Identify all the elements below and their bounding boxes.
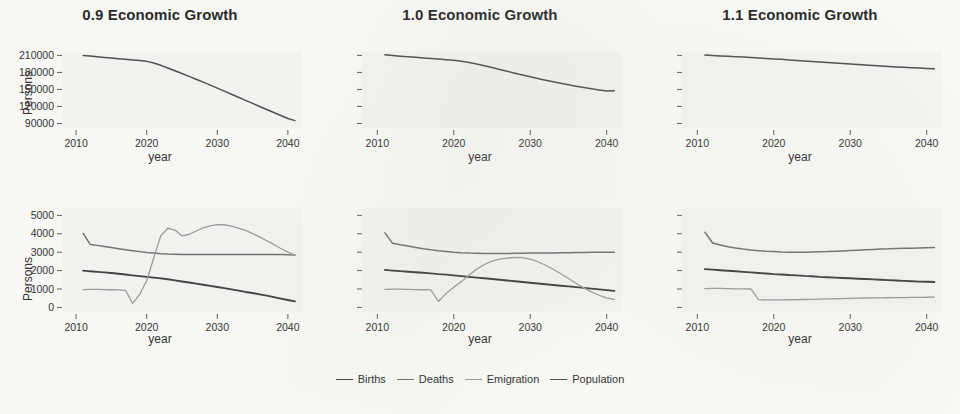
y-axis-tick-label: 4000 — [31, 227, 55, 239]
x-axis-tick-label: 2040 — [276, 137, 300, 149]
x-axis-label: year — [0, 150, 320, 164]
plot-background — [682, 52, 942, 128]
y-axis-tick-label: 3000 — [31, 246, 55, 258]
y-axis-tick-label: 210000 — [19, 49, 54, 61]
plot-background — [362, 208, 622, 312]
x-axis-label: year — [320, 332, 640, 346]
legend-label: Deaths — [419, 374, 454, 385]
x-axis-tick-label: 2010 — [686, 137, 710, 149]
x-axis-tick-label: 2030 — [519, 137, 543, 149]
x-axis-tick-label: 2010 — [366, 137, 390, 149]
panel-bottom-left: Persons 01000200030004000500020102020203… — [0, 186, 320, 372]
x-axis-tick-label: 2020 — [762, 137, 786, 149]
x-axis-tick-label: 2030 — [839, 137, 863, 149]
panel-top-right: 1.1 Economic Growth 2010202020302040 yea… — [640, 0, 960, 186]
x-axis-tick-label: 2010 — [64, 137, 88, 149]
panel-grid: 0.9 Economic Growth Persons 900001200001… — [0, 0, 960, 414]
x-axis-tick-label: 2030 — [206, 137, 230, 149]
panel-top-left: 0.9 Economic Growth Persons 900001200001… — [0, 0, 320, 186]
y-axis-tick-label: 5000 — [31, 209, 55, 221]
legend-swatch-icon — [397, 379, 414, 380]
plot-background — [682, 208, 942, 312]
chart-legend: BirthsDeathsEmigrationPopulation — [0, 374, 960, 385]
legend-item-population[interactable]: Population — [550, 374, 624, 385]
y-axis-tick-label: 120000 — [19, 100, 54, 112]
x-axis-tick-label: 2020 — [442, 137, 466, 149]
y-axis-tick-label: 90000 — [25, 117, 54, 129]
plot-background — [362, 52, 622, 128]
x-axis-tick-label: 2040 — [915, 137, 939, 149]
legend-item-births[interactable]: Births — [336, 374, 386, 385]
x-axis-label: year — [0, 332, 320, 346]
legend-item-deaths[interactable]: Deaths — [397, 374, 454, 385]
legend-swatch-icon — [336, 379, 353, 380]
panel-bottom-middle: 2010202020302040 year — [320, 186, 640, 372]
plot-background — [62, 52, 302, 128]
legend-label: Births — [358, 374, 386, 385]
legend-item-emigration[interactable]: Emigration — [465, 374, 540, 385]
legend-swatch-icon — [550, 379, 567, 380]
y-axis-tick-label: 1000 — [31, 283, 55, 295]
panel-bottom-right: 2010202020302040 year — [640, 186, 960, 372]
y-axis-tick-label: 150000 — [19, 83, 54, 95]
y-axis-tick-label: 0 — [48, 301, 54, 313]
x-axis-tick-label: 2040 — [595, 137, 619, 149]
y-axis-tick-label: 180000 — [19, 66, 54, 78]
x-axis-label: year — [640, 332, 960, 346]
y-axis-tick-label: 2000 — [31, 264, 55, 276]
legend-label: Emigration — [487, 374, 540, 385]
legend-label: Population — [572, 374, 624, 385]
x-axis-tick-label: 2020 — [135, 137, 159, 149]
panel-top-middle: 1.0 Economic Growth 2010202020302040 yea… — [320, 0, 640, 186]
x-axis-label: year — [640, 150, 960, 164]
legend-swatch-icon — [465, 379, 482, 380]
x-axis-label: year — [320, 150, 640, 164]
